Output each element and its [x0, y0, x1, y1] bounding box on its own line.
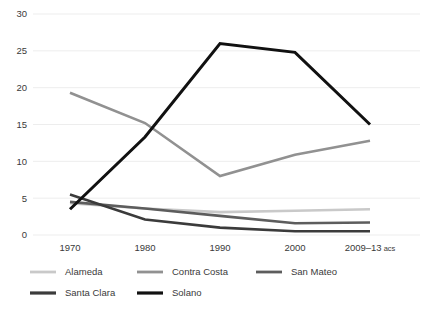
- chart-canvas: 051015202530 19701980199020002009–13 acs…: [0, 0, 426, 311]
- x-tick-label-3: 2000: [284, 242, 305, 253]
- legend-label: Contra Costa: [172, 266, 229, 277]
- legend-label: Solano: [172, 287, 202, 298]
- y-tick-label-25: 25: [16, 45, 27, 56]
- y-tick-label-20: 20: [16, 82, 27, 93]
- x-tick-label-0: 1970: [59, 242, 80, 253]
- legend-label: Santa Clara: [65, 287, 116, 298]
- x-tick-label-1: 1980: [134, 242, 155, 253]
- y-tick-label-15: 15: [16, 119, 27, 130]
- legend-label: San Mateo: [291, 266, 337, 277]
- line-chart: 051015202530 19701980199020002009–13 acs…: [0, 0, 426, 311]
- x-tick-label-4: 2009–13 acs: [345, 242, 396, 253]
- x-tick-label-2: 1990: [209, 242, 230, 253]
- legend-label: Alameda: [65, 266, 103, 277]
- chart-background: [0, 0, 426, 311]
- y-tick-label-5: 5: [22, 193, 27, 204]
- y-tick-label-0: 0: [22, 229, 27, 240]
- y-tick-label-30: 30: [16, 8, 27, 19]
- y-tick-label-10: 10: [16, 156, 27, 167]
